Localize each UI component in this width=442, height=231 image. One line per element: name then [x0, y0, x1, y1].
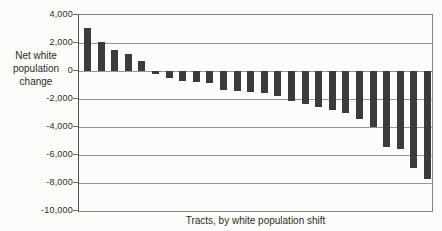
- gridline: [79, 183, 432, 184]
- bar: [111, 50, 118, 71]
- y-tick-mark: [73, 182, 78, 183]
- bar: [261, 71, 268, 93]
- bar: [370, 71, 377, 127]
- y-tick-mark: [73, 14, 78, 15]
- bar: [329, 71, 336, 110]
- gridline: [79, 43, 432, 44]
- bar: [397, 71, 404, 149]
- gridline: [79, 71, 432, 72]
- bar: [193, 71, 200, 82]
- bar: [274, 71, 281, 96]
- bar: [152, 71, 159, 74]
- y-tick-mark: [73, 126, 78, 127]
- y-tick-mark: [73, 154, 78, 155]
- bar: [84, 28, 91, 71]
- bar: [383, 71, 390, 147]
- bar: [247, 71, 254, 92]
- bar: [166, 71, 173, 78]
- bar: [288, 71, 295, 101]
- bar: [220, 71, 227, 90]
- y-tick-label: -10,000: [41, 205, 73, 216]
- bar: [342, 71, 349, 113]
- bar: [410, 71, 417, 168]
- y-tick-label: -2,000: [46, 93, 73, 104]
- bar: [315, 71, 322, 107]
- y-tick-label: -4,000: [46, 121, 73, 132]
- gridline: [79, 99, 432, 100]
- bar: [302, 71, 309, 104]
- bar-chart: Net white population change 4,0002,0000-…: [0, 0, 442, 231]
- bar: [98, 42, 105, 71]
- bar: [125, 54, 132, 72]
- y-tick-label: -6,000: [46, 149, 73, 160]
- y-tick-label: 2,000: [49, 37, 73, 48]
- y-tick-label: 4,000: [49, 9, 73, 20]
- bar: [234, 71, 241, 91]
- y-tick-mark: [73, 210, 78, 211]
- x-axis-title: Tracts, by white population shift: [78, 215, 433, 226]
- gridline: [79, 127, 432, 128]
- plot-area: [78, 14, 433, 212]
- y-axis-tick-labels: 4,0002,0000-2,000-4,000-6,000-8,000-10,0…: [0, 14, 73, 212]
- bar: [179, 71, 186, 81]
- y-tick-label: -8,000: [46, 177, 73, 188]
- bar: [138, 61, 145, 71]
- y-tick-mark: [73, 70, 78, 71]
- y-tick-mark: [73, 42, 78, 43]
- bar: [206, 71, 213, 83]
- bar: [424, 71, 431, 179]
- y-tick-mark: [73, 98, 78, 99]
- bar: [356, 71, 363, 119]
- gridline: [79, 155, 432, 156]
